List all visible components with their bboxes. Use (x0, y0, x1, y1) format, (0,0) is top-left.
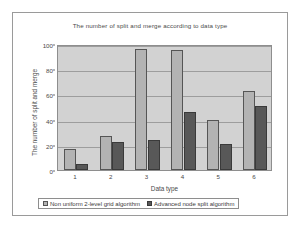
x-axis-tick-labels: 123456 (57, 173, 272, 185)
y-tick-mark (53, 120, 55, 121)
x-tick-label: 6 (252, 173, 255, 180)
bar[interactable] (171, 50, 183, 170)
y-tick-mark (53, 145, 55, 146)
chart-title: The number of split and merge according … (13, 22, 287, 29)
y-tick-label: 100 (43, 42, 53, 49)
bar[interactable] (135, 49, 147, 170)
bar-group (64, 46, 89, 170)
y-tick-mark (53, 45, 55, 46)
y-tick-mark (53, 171, 55, 172)
bar[interactable] (76, 164, 88, 170)
legend-swatch-icon (43, 201, 48, 206)
x-tick-label: 1 (73, 173, 76, 180)
bar-group (171, 46, 196, 170)
legend-swatch-icon (147, 201, 152, 206)
x-tick-label: 3 (145, 173, 148, 180)
legend-entry[interactable]: Non uniform 2-level grid algorithm (43, 201, 140, 207)
y-tick-label: 20 (46, 142, 53, 149)
y-tick-label: 60 (46, 92, 53, 99)
bars-layer (58, 46, 271, 170)
bar[interactable] (255, 106, 267, 170)
legend-label: Advanced node split algorithm (154, 201, 234, 207)
y-tick-mark (53, 95, 55, 96)
bar[interactable] (184, 112, 196, 170)
bar-group (135, 46, 160, 170)
bar[interactable] (100, 136, 112, 170)
bar[interactable] (220, 144, 232, 170)
bar[interactable] (112, 142, 124, 170)
legend-label: Non uniform 2-level grid algorithm (50, 201, 140, 207)
x-tick-label: 2 (109, 173, 112, 180)
y-tick-label: 80 (46, 67, 53, 74)
bar-group (207, 46, 232, 170)
chart-frame: The number of split and merge according … (12, 12, 288, 216)
y-tick-label: 40 (46, 117, 53, 124)
legend-entry[interactable]: Advanced node split algorithm (147, 201, 234, 207)
x-tick-label: 4 (181, 173, 184, 180)
chart-legend: Non uniform 2-level grid algorithmAdvanc… (38, 198, 239, 209)
bar-group (243, 46, 268, 170)
bar[interactable] (207, 120, 219, 170)
bar[interactable] (243, 91, 255, 170)
y-axis-tick-labels: 020406080100 (33, 45, 55, 171)
bar[interactable] (148, 140, 160, 170)
x-tick-label: 5 (217, 173, 220, 180)
y-tick-mark (53, 70, 55, 71)
bar[interactable] (64, 149, 76, 170)
plot-area (57, 45, 272, 171)
bar-group (100, 46, 125, 170)
x-axis-title: Data type (57, 185, 272, 192)
